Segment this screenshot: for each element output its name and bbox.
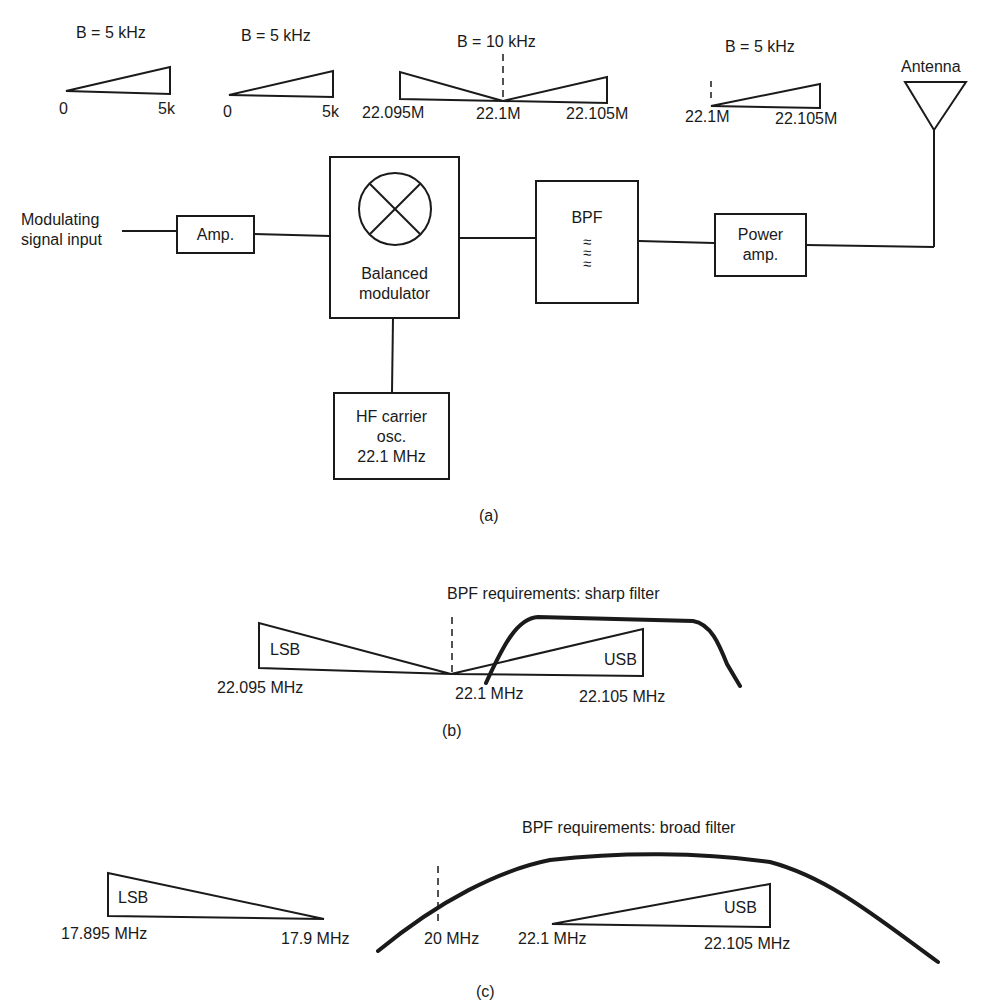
spectrum-triangle-usb bbox=[503, 77, 607, 103]
antenna-triangle bbox=[905, 82, 966, 130]
c-usb-left-freq: 22.1 MHz bbox=[518, 930, 586, 948]
bpf-block: BPF ≈ ≈ ≈ bbox=[535, 180, 639, 304]
amp-block: Amp. bbox=[176, 215, 255, 254]
antenna-label: Antenna bbox=[901, 58, 961, 76]
spectrum-3-center-freq: 22.1M bbox=[476, 105, 520, 123]
spectrum-2-right-freq: 5k bbox=[322, 103, 339, 121]
power-amp-block: Power amp. bbox=[714, 213, 807, 277]
amp-label: Amp. bbox=[178, 225, 253, 245]
wire-oscillator-to-modulator bbox=[392, 318, 393, 392]
c-center-freq: 20 MHz bbox=[424, 930, 479, 948]
spectrum-triangle-baseband-1 bbox=[66, 67, 170, 94]
b-freq-left: 22.095 MHz bbox=[217, 679, 303, 697]
spectrum-4-right-freq: 22.105M bbox=[775, 110, 837, 128]
spectrum-1-right-freq: 5k bbox=[158, 100, 175, 118]
spectrum-3-bandwidth: B = 10 kHz bbox=[457, 33, 536, 51]
spectrum-1-left-freq: 0 bbox=[59, 100, 68, 118]
spectrum-triangle-ssb bbox=[711, 84, 820, 108]
diagram-line-art bbox=[0, 0, 990, 1007]
power-amp-label-1: Power bbox=[716, 225, 805, 245]
input-label-line2: signal input bbox=[21, 231, 102, 249]
oscillator-label-2: osc. bbox=[335, 427, 448, 447]
spectrum-2-left-freq: 0 bbox=[223, 103, 232, 121]
input-label-line1: Modulating bbox=[21, 211, 99, 229]
wire-poweramp-to-antenna bbox=[806, 245, 934, 247]
caption-c: (c) bbox=[476, 983, 495, 1001]
c-title: BPF requirements: broad filter bbox=[522, 819, 735, 837]
balanced-modulator-label-2: modulator bbox=[331, 284, 458, 304]
bpf-label: BPF bbox=[537, 208, 637, 228]
b-title: BPF requirements: sharp filter bbox=[447, 585, 660, 603]
balanced-modulator-block: Balanced modulator bbox=[329, 156, 460, 319]
b-usb-label: USB bbox=[604, 651, 637, 669]
c-usb-label: USB bbox=[724, 899, 757, 917]
hf-carrier-oscillator-block: HF carrier osc. 22.1 MHz bbox=[333, 392, 450, 480]
spectrum-4-bandwidth: B = 5 kHz bbox=[725, 38, 795, 56]
spectrum-2-bandwidth: B = 5 kHz bbox=[241, 27, 311, 45]
c-lsb-label: LSB bbox=[118, 889, 148, 907]
spectrum-3-left-freq: 22.095M bbox=[362, 104, 424, 122]
oscillator-label-1: HF carrier bbox=[335, 407, 448, 427]
c-usb-right-freq: 22.105 MHz bbox=[704, 935, 790, 953]
caption-b: (b) bbox=[442, 722, 462, 740]
balanced-modulator-label-1: Balanced bbox=[331, 264, 458, 284]
c-lsb-right-freq: 17.9 MHz bbox=[281, 930, 349, 948]
wire-amp-to-modulator bbox=[254, 234, 330, 236]
oscillator-label-3: 22.1 MHz bbox=[335, 447, 448, 467]
spectrum-4-left-freq: 22.1M bbox=[685, 108, 729, 126]
b-lsb-label: LSB bbox=[270, 641, 300, 659]
spectrum-triangle-baseband-2 bbox=[229, 71, 333, 97]
b-freq-right: 22.105 MHz bbox=[579, 688, 665, 706]
c-lsb-left-freq: 17.895 MHz bbox=[61, 925, 147, 943]
spectrum-triangle-lsb bbox=[400, 72, 503, 101]
bpf-tilde-icon-3: ≈ bbox=[537, 258, 637, 269]
spectrum-3-right-freq: 22.105M bbox=[566, 105, 628, 123]
power-amp-label-2: amp. bbox=[716, 245, 805, 265]
caption-a: (a) bbox=[479, 507, 499, 525]
spectrum-1-bandwidth: B = 5 kHz bbox=[76, 24, 146, 42]
b-freq-center: 22.1 MHz bbox=[455, 685, 523, 703]
wire-bpf-to-poweramp bbox=[639, 241, 714, 243]
